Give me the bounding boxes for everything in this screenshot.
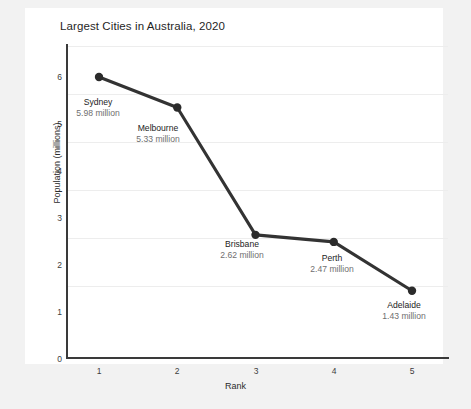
x-tick-label-1: 1	[84, 366, 114, 376]
point-label-value-sydney: 5.98 million	[42, 108, 154, 119]
x-tick-label-4: 4	[319, 366, 349, 376]
point-label-name-brisbane: Brisbane	[188, 239, 296, 250]
point-label-name-adelaide: Adelaide	[348, 300, 460, 311]
x-tick-label-2: 2	[162, 366, 192, 376]
point-annotation-sydney: Sydney 5.98 million	[42, 97, 154, 120]
chart-figure: Largest Cities in Australia, 2020 6 5 4 …	[0, 0, 471, 409]
x-tick-label-3: 3	[241, 366, 271, 376]
gridline-y3	[67, 190, 448, 191]
point-annotation-perth: Perth 2.47 million	[278, 253, 386, 276]
gridline-y6	[67, 46, 448, 47]
chart-title: Largest Cities in Australia, 2020	[60, 20, 225, 32]
y-tick-label-1: 1	[42, 307, 62, 317]
gridline-y5	[67, 94, 448, 95]
point-label-name-sydney: Sydney	[42, 97, 154, 108]
point-annotation-melbourne: Melbourne 5.33 million	[98, 123, 218, 146]
point-label-name-melbourne: Melbourne	[98, 123, 218, 134]
x-axis-line	[66, 357, 449, 359]
y-axis-line	[66, 44, 68, 359]
point-label-name-perth: Perth	[278, 253, 386, 264]
point-label-value-melbourne: 5.33 million	[98, 134, 218, 145]
y-tick-label-6: 6	[42, 72, 62, 82]
x-axis-label: Rank	[0, 381, 471, 391]
y-tick-label-2: 2	[42, 260, 62, 270]
x-tick-label-5: 5	[397, 366, 427, 376]
point-label-value-perth: 2.47 million	[278, 264, 386, 275]
y-tick-label-0: 0	[42, 354, 62, 364]
gridline-y1	[67, 286, 448, 287]
point-label-value-adelaide: 1.43 million	[348, 311, 460, 322]
point-annotation-adelaide: Adelaide 1.43 million	[348, 300, 460, 323]
